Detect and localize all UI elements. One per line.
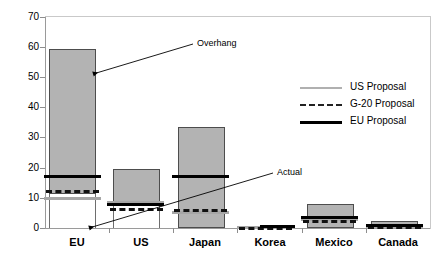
marker-eu-proposal-korea: [260, 225, 295, 228]
marker-eu-proposal-mexico: [301, 216, 358, 219]
y-tick-label-40: 40: [9, 102, 39, 112]
y-tick-label-10: 10: [9, 193, 39, 203]
marker-g20-proposal-japan: [174, 209, 227, 212]
marker-eu-proposal-japan: [172, 175, 229, 178]
annotation-actual-label: Actual: [277, 167, 302, 177]
y-tick-label-30: 30: [9, 132, 39, 142]
legend-item-us-proposal: US Proposal: [300, 80, 432, 97]
marker-eu-proposal-canada: [366, 224, 423, 227]
y-tick-label-70: 70: [9, 12, 39, 22]
y-tick-20: [40, 168, 45, 169]
marker-eu-proposal-eu: [44, 175, 101, 178]
y-tick-50: [40, 77, 45, 78]
y-tick-label-60: 60: [9, 42, 39, 52]
chart-container: 0 10 20 30 40 50 60 70 EU US Japan Korea…: [0, 0, 438, 272]
marker-us-proposal-eu: [44, 197, 101, 200]
y-tick-70: [40, 17, 45, 18]
annotation-overhang-label: Overhang: [197, 38, 237, 48]
legend-label-us-proposal: US Proposal: [350, 81, 406, 93]
chart-legend: US Proposal G-20 Proposal EU Proposal: [300, 80, 432, 131]
y-tick-30: [40, 137, 45, 138]
line-solid-gray-icon: [300, 87, 342, 89]
marker-g20-proposal-eu: [46, 190, 99, 193]
plot-border-top: [45, 16, 431, 17]
y-tick-label-0: 0: [9, 223, 39, 233]
line-dashed-icon: [300, 104, 342, 106]
y-tick-label-20: 20: [9, 163, 39, 173]
x-tick-1: [109, 228, 110, 233]
legend-item-eu-proposal: EU Proposal: [300, 114, 432, 131]
x-label-canada: Canada: [358, 236, 438, 249]
line-solid-black-icon: [300, 121, 342, 124]
marker-g20-proposal-mexico: [303, 220, 356, 223]
y-tick-label-50: 50: [9, 72, 39, 82]
y-tick-40: [40, 107, 45, 108]
x-tick-2: [173, 228, 174, 233]
legend-label-eu-proposal: EU Proposal: [350, 115, 406, 127]
y-tick-0: [40, 228, 45, 229]
marker-eu-proposal-us: [107, 203, 164, 206]
bar-eu: [49, 49, 96, 194]
legend-item-g20-proposal: G-20 Proposal: [300, 97, 432, 114]
x-tick-4: [302, 228, 303, 233]
x-tick-5: [366, 228, 367, 233]
y-tick-60: [40, 47, 45, 48]
marker-g20-proposal-us: [110, 208, 163, 211]
legend-label-g20-proposal: G-20 Proposal: [350, 98, 414, 110]
